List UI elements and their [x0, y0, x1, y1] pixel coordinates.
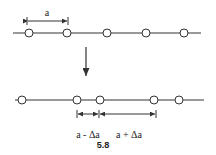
long-spacing-label: a + Δa: [116, 129, 143, 140]
atom-icon: [63, 29, 71, 37]
atom-icon: [180, 29, 188, 37]
bottom-chain: a - Δa a + Δa: [15, 96, 204, 140]
atom-icon: [96, 96, 104, 104]
figure-number: 5.8: [97, 140, 110, 150]
atom-icon: [175, 96, 183, 104]
atom-icon: [150, 96, 158, 104]
peierls-distortion-diagram: a a - Δa a + Δa 5.8: [0, 0, 216, 155]
top-spacing-dimension: [27, 17, 68, 25]
top-chain: a: [13, 7, 201, 37]
short-spacing-label: a - Δa: [76, 129, 100, 140]
atom-icon: [103, 29, 111, 37]
atom-icon: [18, 96, 26, 104]
atom-icon: [142, 29, 150, 37]
atom-icon: [73, 96, 81, 104]
spacing-label-a: a: [45, 7, 50, 18]
atom-icon: [25, 29, 33, 37]
bottom-spacing-dimensions: [77, 110, 156, 118]
